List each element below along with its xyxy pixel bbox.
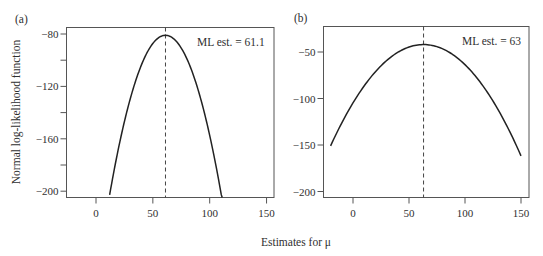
y-tick-label: −120 [36, 80, 59, 92]
x-tick-label: 150 [258, 207, 275, 219]
panel-b-x-axis: 050100150 [350, 198, 530, 219]
log-likelihood-figure: Normal log-likelihood function Estimates… [0, 0, 543, 256]
panel-a-likelihood-curve [110, 35, 223, 197]
y-tick-label: −50 [298, 46, 316, 58]
y-tick-label: −200 [36, 185, 59, 197]
x-tick-label: 50 [147, 207, 159, 219]
x-tick-label: 100 [457, 207, 474, 219]
panel-b-plot-box [324, 27, 530, 198]
panel-a-plot-box [67, 28, 275, 198]
panel-a-label: (a) [15, 13, 28, 26]
y-tick-label: −200 [293, 186, 316, 198]
panel-a-y-axis: −80−120−160−200 [36, 28, 67, 197]
panel-a: (a) −80−120−160−200 050100150 ML est. = … [15, 13, 275, 219]
panel-a-ml-annotation: ML est. = 61.1 [197, 36, 265, 48]
x-tick-label: 0 [350, 207, 356, 219]
x-tick-label: 0 [93, 207, 99, 219]
panel-b-likelihood-curve [331, 45, 521, 156]
panel-a-x-axis: 050100150 [93, 198, 275, 219]
y-tick-label: −80 [41, 28, 59, 40]
x-axis-title: Estimates for μ [261, 236, 331, 249]
panel-b-label: (b) [294, 12, 308, 25]
y-tick-label: −160 [36, 133, 59, 145]
y-axis-title: Normal log-likelihood function [10, 40, 23, 185]
x-tick-label: 100 [201, 207, 218, 219]
y-tick-label: −100 [293, 93, 316, 105]
panel-b-y-axis: −50−100−150−200 [293, 46, 324, 198]
x-tick-label: 50 [404, 207, 416, 219]
panel-b-ml-annotation: ML est. = 63 [462, 35, 521, 47]
panel-b: (b) −50−100−150−200 050100150 ML est. = … [293, 12, 530, 219]
y-tick-label: −150 [293, 139, 316, 151]
x-tick-label: 150 [513, 207, 530, 219]
